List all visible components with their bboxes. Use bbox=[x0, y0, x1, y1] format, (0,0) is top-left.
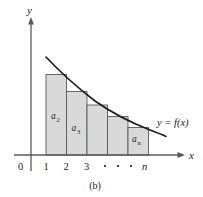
bar-4 bbox=[108, 117, 129, 156]
x-tick-label-n: n bbox=[142, 161, 147, 172]
bar-label-a3-base: a bbox=[72, 123, 77, 133]
y-axis-arrowhead bbox=[28, 17, 34, 25]
figure-container: y x 0 1 2 3 n a 2 bbox=[0, 0, 203, 197]
y-axis-label: y bbox=[26, 4, 32, 16]
ellipsis-dot-3 bbox=[130, 165, 132, 167]
x-tick-label-1: 1 bbox=[44, 161, 49, 172]
bar-label-a2-sub: 2 bbox=[57, 116, 60, 123]
bar-3 bbox=[87, 105, 108, 155]
bar-label-a2-base: a bbox=[51, 111, 56, 121]
curve-label: y = f(x) bbox=[156, 117, 189, 129]
bar-a3 bbox=[67, 92, 88, 156]
ellipsis-dot-2 bbox=[117, 165, 119, 167]
y-axis: y bbox=[26, 4, 34, 171]
x-tick-label-3: 3 bbox=[84, 161, 89, 172]
figure-svg: y x 0 1 2 3 n a 2 bbox=[0, 0, 203, 197]
x-axis-label: x bbox=[188, 149, 194, 161]
x-tick-label-2: 2 bbox=[64, 161, 69, 172]
bar-label-a3-sub: 3 bbox=[77, 128, 80, 135]
x-axis-ellipsis bbox=[104, 165, 132, 167]
bar-label-an-base: a bbox=[132, 134, 137, 144]
ellipsis-dot-1 bbox=[104, 165, 106, 167]
x-axis-arrowhead bbox=[178, 152, 186, 158]
origin-tick-label: 0 bbox=[18, 161, 23, 172]
figure-caption: (b) bbox=[89, 180, 101, 192]
